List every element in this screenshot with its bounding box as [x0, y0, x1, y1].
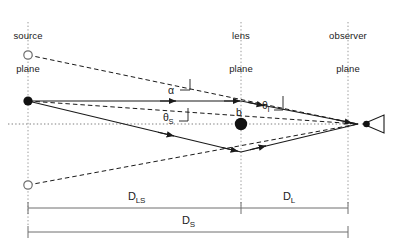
- distance-observer-lens-label: DL: [283, 190, 295, 202]
- d-l-glyph: D: [283, 190, 291, 202]
- d-l-subscript: L: [291, 196, 295, 205]
- d-s-subscript: S: [190, 220, 195, 229]
- image-angle-theta-i: θI: [262, 99, 270, 111]
- light-path-group: [28, 101, 358, 152]
- theta-s-subscript: S: [169, 117, 174, 126]
- impact-parameter-b: b: [236, 106, 242, 118]
- observer-plane-label-line1: observer: [315, 30, 381, 41]
- theta-s-angle-arc: [179, 108, 188, 121]
- source-angle-theta-s: θS: [163, 111, 174, 123]
- distance-observer-source-label: DS: [182, 214, 195, 226]
- alpha-angle-arc: [180, 79, 190, 90]
- ray-direction-arrows: [158, 101, 352, 151]
- d-s-glyph: D: [182, 214, 190, 226]
- theta-i-glyph: θ: [262, 99, 268, 111]
- d-ls-subscript: LS: [136, 196, 146, 205]
- lower-image-position-icon: [24, 181, 32, 189]
- true-source-position-icon: [23, 96, 32, 105]
- lower-apparent-ray: [28, 124, 358, 185]
- theta-s-glyph: θ: [163, 111, 169, 123]
- lensing-diagram-canvas: source plane lens plane observer plane α…: [0, 0, 396, 248]
- theta-i-subscript: I: [268, 105, 270, 114]
- observer-plane-label: observer plane: [315, 8, 381, 96]
- observer-plane-label-line2: plane: [315, 63, 381, 74]
- lens-mass-icon: [235, 118, 247, 130]
- source-plane-label-line1: source: [0, 30, 56, 41]
- upper-apparent-ray: [28, 55, 358, 124]
- lens-plane-label: lens plane: [213, 8, 269, 96]
- distance-lens-source-label: DLS: [128, 190, 146, 202]
- source-plane-label-line2: plane: [0, 63, 56, 74]
- observer-eye-icon: [363, 115, 384, 133]
- impact-parameter-glyph: b: [236, 106, 242, 118]
- source-plane-label: source plane: [0, 8, 56, 96]
- arrow-lower-out-1: [250, 146, 266, 150]
- d-ls-glyph: D: [128, 190, 136, 202]
- lens-plane-label-line2: plane: [213, 63, 269, 74]
- lens-plane-label-line1: lens: [213, 30, 269, 41]
- alpha-glyph: α: [168, 84, 174, 96]
- apparent-ray-group: [28, 55, 358, 185]
- deflection-angle-alpha: α: [168, 84, 174, 96]
- arrow-lower-in-1: [158, 132, 174, 136]
